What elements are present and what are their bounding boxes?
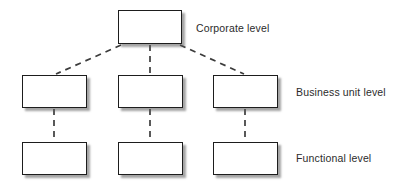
business-unit-level-label: Business unit level bbox=[296, 86, 386, 98]
corporate-level-label: Corporate level bbox=[196, 22, 269, 34]
functional-level-label: Functional level bbox=[296, 152, 371, 164]
corp-to-bu-left bbox=[56, 45, 121, 74]
functional-node-3[interactable] bbox=[213, 142, 278, 175]
business-node-1[interactable] bbox=[22, 75, 87, 108]
business-node-2[interactable] bbox=[118, 75, 183, 108]
corp-to-bu-right bbox=[180, 45, 244, 74]
corporate-node-1[interactable] bbox=[118, 10, 182, 44]
strategy-hierarchy-diagram: Corporate level Business unit level Func… bbox=[0, 0, 395, 187]
functional-node-1[interactable] bbox=[22, 142, 87, 175]
business-node-3[interactable] bbox=[213, 75, 278, 108]
functional-node-2[interactable] bbox=[118, 142, 183, 175]
